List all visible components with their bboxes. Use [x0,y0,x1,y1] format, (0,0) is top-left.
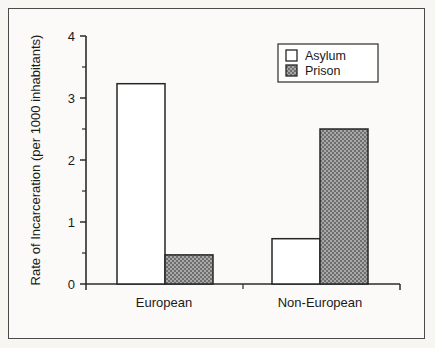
y-tick-label-0: 0 [68,277,75,292]
y-tick-label-4: 4 [68,29,75,44]
legend-label-prison: Prison [305,64,340,78]
legend: Asylum Prison [278,44,378,82]
y-tick-label-3: 3 [68,91,75,106]
x-category-label-non-european: Non-European [278,295,363,310]
legend-label-asylum: Asylum [305,49,346,63]
chart-svg: 0 1 2 3 4 Rate of Incarceration (per 100… [0,0,435,348]
bar-european-asylum [117,84,165,284]
y-axis: 0 1 2 3 4 Rate of Incarceration (per 100… [28,29,86,292]
bar-european-prison [165,255,213,284]
x-axis: European Non-European [86,284,400,310]
figure-canvas: 0 1 2 3 4 Rate of Incarceration (per 100… [0,0,435,348]
x-category-label-european: European [136,295,192,310]
y-axis-title: Rate of Incarceration (per 1000 inhabita… [28,35,43,286]
y-tick-label-1: 1 [68,215,75,230]
legend-swatch-asylum [286,50,297,61]
bar-non-european-asylum [272,239,320,284]
bar-chart: 0 1 2 3 4 Rate of Incarceration (per 100… [0,0,435,348]
y-tick-label-2: 2 [68,153,75,168]
legend-swatch-prison [286,65,297,76]
bar-non-european-prison [320,129,368,284]
